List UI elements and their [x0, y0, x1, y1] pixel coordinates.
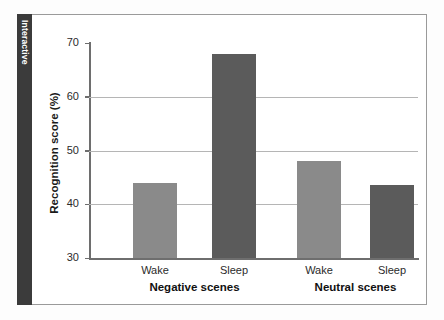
x-tick-label: Sleep — [352, 264, 432, 276]
x-tick-label: Sleep — [194, 264, 274, 276]
x-tick-label: Wake — [279, 264, 359, 276]
y-tick-label: 50 — [33, 145, 79, 156]
bar[interactable] — [370, 185, 414, 258]
bar[interactable] — [133, 183, 177, 258]
x-tick-label: Wake — [115, 264, 195, 276]
x-axis-line — [89, 258, 419, 260]
figure-page: Interactive Recognition score (%) 304050… — [0, 0, 444, 320]
bar[interactable] — [297, 161, 341, 258]
x-axis-group-label: Negative scenes — [125, 281, 265, 294]
y-tick-label: 30 — [33, 252, 79, 263]
bar[interactable] — [212, 54, 256, 258]
interactive-tab-label: Interactive — [20, 20, 30, 65]
x-axis-group-label: Neutral scenes — [286, 281, 426, 294]
y-tick-label: 60 — [33, 91, 79, 102]
y-tick-label: 40 — [33, 198, 79, 209]
chart-axes — [89, 43, 418, 258]
interactive-tab[interactable]: Interactive — [17, 14, 32, 305]
chart-plot-area: Recognition score (%) 3040506070 WakeSle… — [33, 15, 426, 304]
y-tick-label: 70 — [33, 37, 79, 48]
